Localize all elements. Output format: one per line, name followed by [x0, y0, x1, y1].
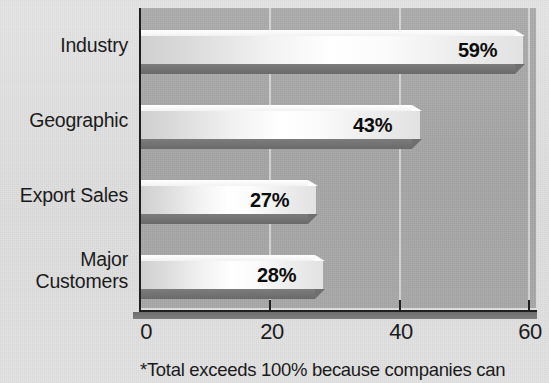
category-axis-labels: Industry Geographic Export Sales Major C…: [0, 8, 134, 308]
axis-floor-shadow: [133, 312, 537, 319]
x-tick-label-40: 40: [389, 319, 412, 345]
y-axis-line: [139, 8, 141, 312]
bar-export-sales-cap-bottom: [308, 214, 318, 224]
x-tick-mark-40: [399, 300, 401, 311]
category-label-export-sales: Export Sales: [20, 184, 128, 206]
category-label-industry: Industry: [60, 34, 128, 56]
bar-major-customers-bottom-bevel: [140, 289, 315, 299]
x-axis-line: [139, 310, 537, 312]
bar-value-industry: 59%: [458, 36, 497, 64]
bar-export-sales-face: [140, 186, 316, 214]
bar-value-geographic: 43%: [353, 111, 392, 139]
x-tick-label-0: 0: [140, 319, 152, 345]
gridline-60: [528, 8, 530, 308]
bar-industry-cap-bottom: [515, 64, 525, 74]
bar-value-export-sales: 27%: [250, 186, 289, 214]
chart-page: Industry Geographic Export Sales Major C…: [0, 0, 549, 383]
bar-value-major-customers: 28%: [257, 261, 296, 289]
bar-export-sales-bottom-bevel: [140, 214, 308, 224]
x-tick-mark-60: [528, 300, 530, 311]
plot-area: 59% 43% 27% 28%: [140, 8, 536, 308]
bar-industry-bottom-bevel: [140, 64, 515, 74]
bar-geographic-bottom-bevel: [140, 139, 412, 149]
bar-major-customers-cap-bottom: [315, 289, 325, 299]
category-label-geographic: Geographic: [29, 109, 128, 131]
x-tick-label-20: 20: [260, 319, 283, 345]
chart-footnote: *Total exceeds 100% because companies ca…: [140, 358, 549, 381]
bar-geographic-cap-bottom: [412, 139, 422, 149]
category-label-major-customers: Major Customers: [36, 248, 128, 292]
x-tick-label-60: 60: [518, 319, 541, 345]
x-tick-mark-20: [269, 300, 271, 311]
